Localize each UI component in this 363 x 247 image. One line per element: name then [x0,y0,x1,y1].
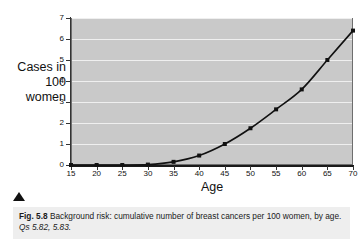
x-axis-title: Age [71,180,353,194]
gridline [72,18,352,19]
y-tick-mark [66,18,70,19]
y-tick-mark [66,81,70,82]
y-tick-mark [66,144,70,145]
triangle-up-icon [13,192,25,201]
y-axis-title-line: 100 [0,75,66,90]
y-axis-title-line: Cases in [0,60,66,75]
gridline [72,144,352,145]
x-tick-label: 45 [213,170,237,178]
x-tick-label: 50 [238,170,262,178]
plot-frame [71,18,353,165]
x-tick-label: 25 [110,170,134,178]
caption-figure-number: Fig. 5.8 [19,211,48,221]
y-tick-label: 6 [40,35,64,43]
y-tick-mark [66,39,70,40]
gridlines [72,19,352,164]
y-tick-mark [66,102,70,103]
x-tick-label: 65 [315,170,339,178]
x-tick-label: 30 [136,170,160,178]
y-tick-label: 7 [40,14,64,22]
figure-caption: Fig. 5.8 Background risk: cumulative num… [13,207,350,239]
y-tick-label: 0 [40,161,64,169]
x-tick-label: 70 [341,170,363,178]
x-tick-label: 20 [85,170,109,178]
figure-container: 01234567 152025303540455055606570 Cases … [0,0,363,247]
y-tick-label: 2 [40,119,64,127]
y-axis-line [70,17,71,166]
chart-area: 01234567 152025303540455055606570 Cases … [0,0,363,196]
gridline [72,81,352,82]
gridline [72,123,352,124]
y-tick-mark [66,123,70,124]
y-tick-mark [66,60,70,61]
x-tick-label: 15 [59,170,83,178]
x-tick-label: 60 [290,170,314,178]
y-tick-mark [66,165,70,166]
gridline [72,39,352,40]
gridline [72,102,352,103]
x-tick-label: 55 [264,170,288,178]
x-tick-label: 35 [162,170,186,178]
caption-line-primary: Fig. 5.8 Background risk: cumulative num… [19,211,344,222]
y-axis-title: Cases in100women [0,60,66,105]
caption-line-reference: Qs 5.82, 5.83. [19,222,344,233]
y-tick-label: 1 [40,140,64,148]
caption-body-text: Background risk: cumulative number of br… [50,211,341,221]
gridline [72,60,352,61]
x-axis-line [70,165,354,167]
y-axis-title-line: women [0,90,66,105]
x-tick-label: 40 [187,170,211,178]
